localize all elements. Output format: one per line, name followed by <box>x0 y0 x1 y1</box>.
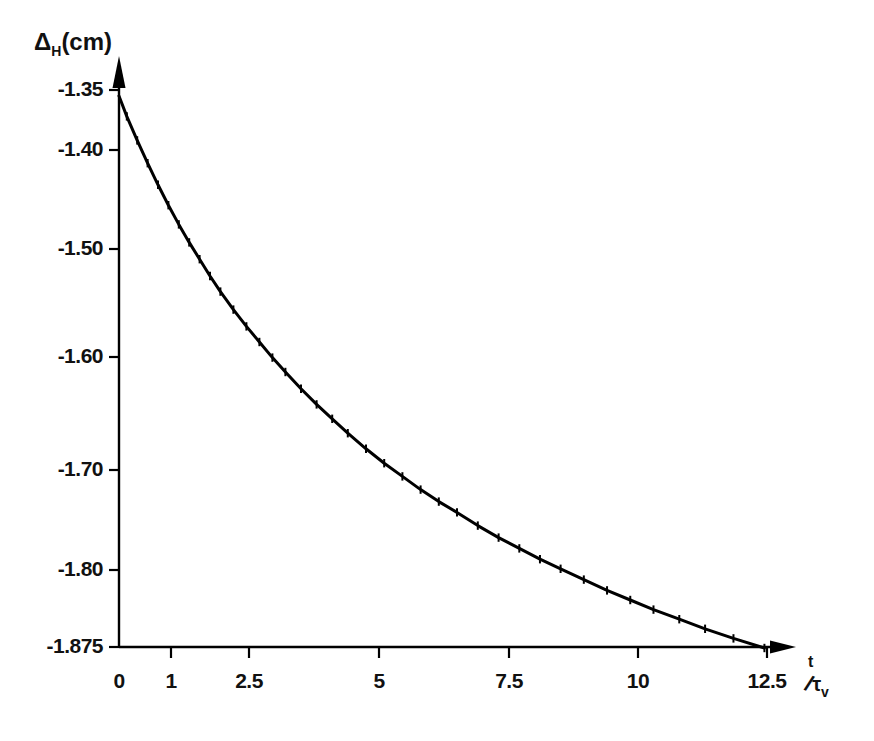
x-tick-label: 2.5 <box>209 669 289 693</box>
y-axis-symbol: Δ <box>34 28 51 55</box>
y-tick-label: -1.875 <box>0 634 103 658</box>
x-tick-label: 7.5 <box>469 669 549 693</box>
y-axis-subscript: H <box>51 43 61 59</box>
x-tick-label: 1 <box>131 669 211 693</box>
x-axis-fraction: t /τv <box>806 669 842 695</box>
y-tick-label: -1.80 <box>0 557 103 581</box>
data-point-markers <box>119 92 764 652</box>
x-axis-title: t /τv <box>806 666 842 695</box>
x-tick-label: 5 <box>339 669 419 693</box>
series-line <box>119 96 764 648</box>
y-tick-label: -1.60 <box>0 344 103 368</box>
y-tick-label: -1.35 <box>0 77 103 101</box>
x-axis-numerator: t <box>808 653 813 671</box>
x-axis-denominator-subscript: v <box>821 683 829 699</box>
figure-container: ΔH(cm) t /τv -1.35-1.40-1.50-1.60-1.70-1… <box>0 0 874 741</box>
y-axis-unit: (cm) <box>61 28 112 55</box>
x-tick-label: 12.5 <box>727 669 807 693</box>
chart-canvas <box>0 0 874 741</box>
y-tick-label: -1.50 <box>0 236 103 260</box>
tick-marks-group <box>109 90 767 658</box>
y-axis-arrowhead <box>113 56 126 88</box>
axes-group <box>113 56 797 654</box>
y-tick-label: -1.40 <box>0 137 103 161</box>
y-tick-label: -1.70 <box>0 457 103 481</box>
x-tick-label: 10 <box>598 669 678 693</box>
data-curve <box>119 96 764 648</box>
y-axis-title: ΔH(cm) <box>34 28 112 59</box>
x-axis-arrowhead <box>770 641 796 654</box>
